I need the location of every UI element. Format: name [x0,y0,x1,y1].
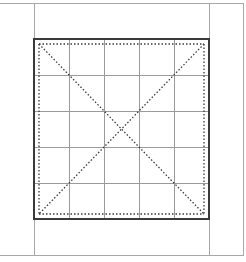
dotted-guides [39,44,204,214]
grid-lines [34,39,209,219]
grid-square-border [34,39,209,219]
practice-grid-diagram [0,0,246,262]
